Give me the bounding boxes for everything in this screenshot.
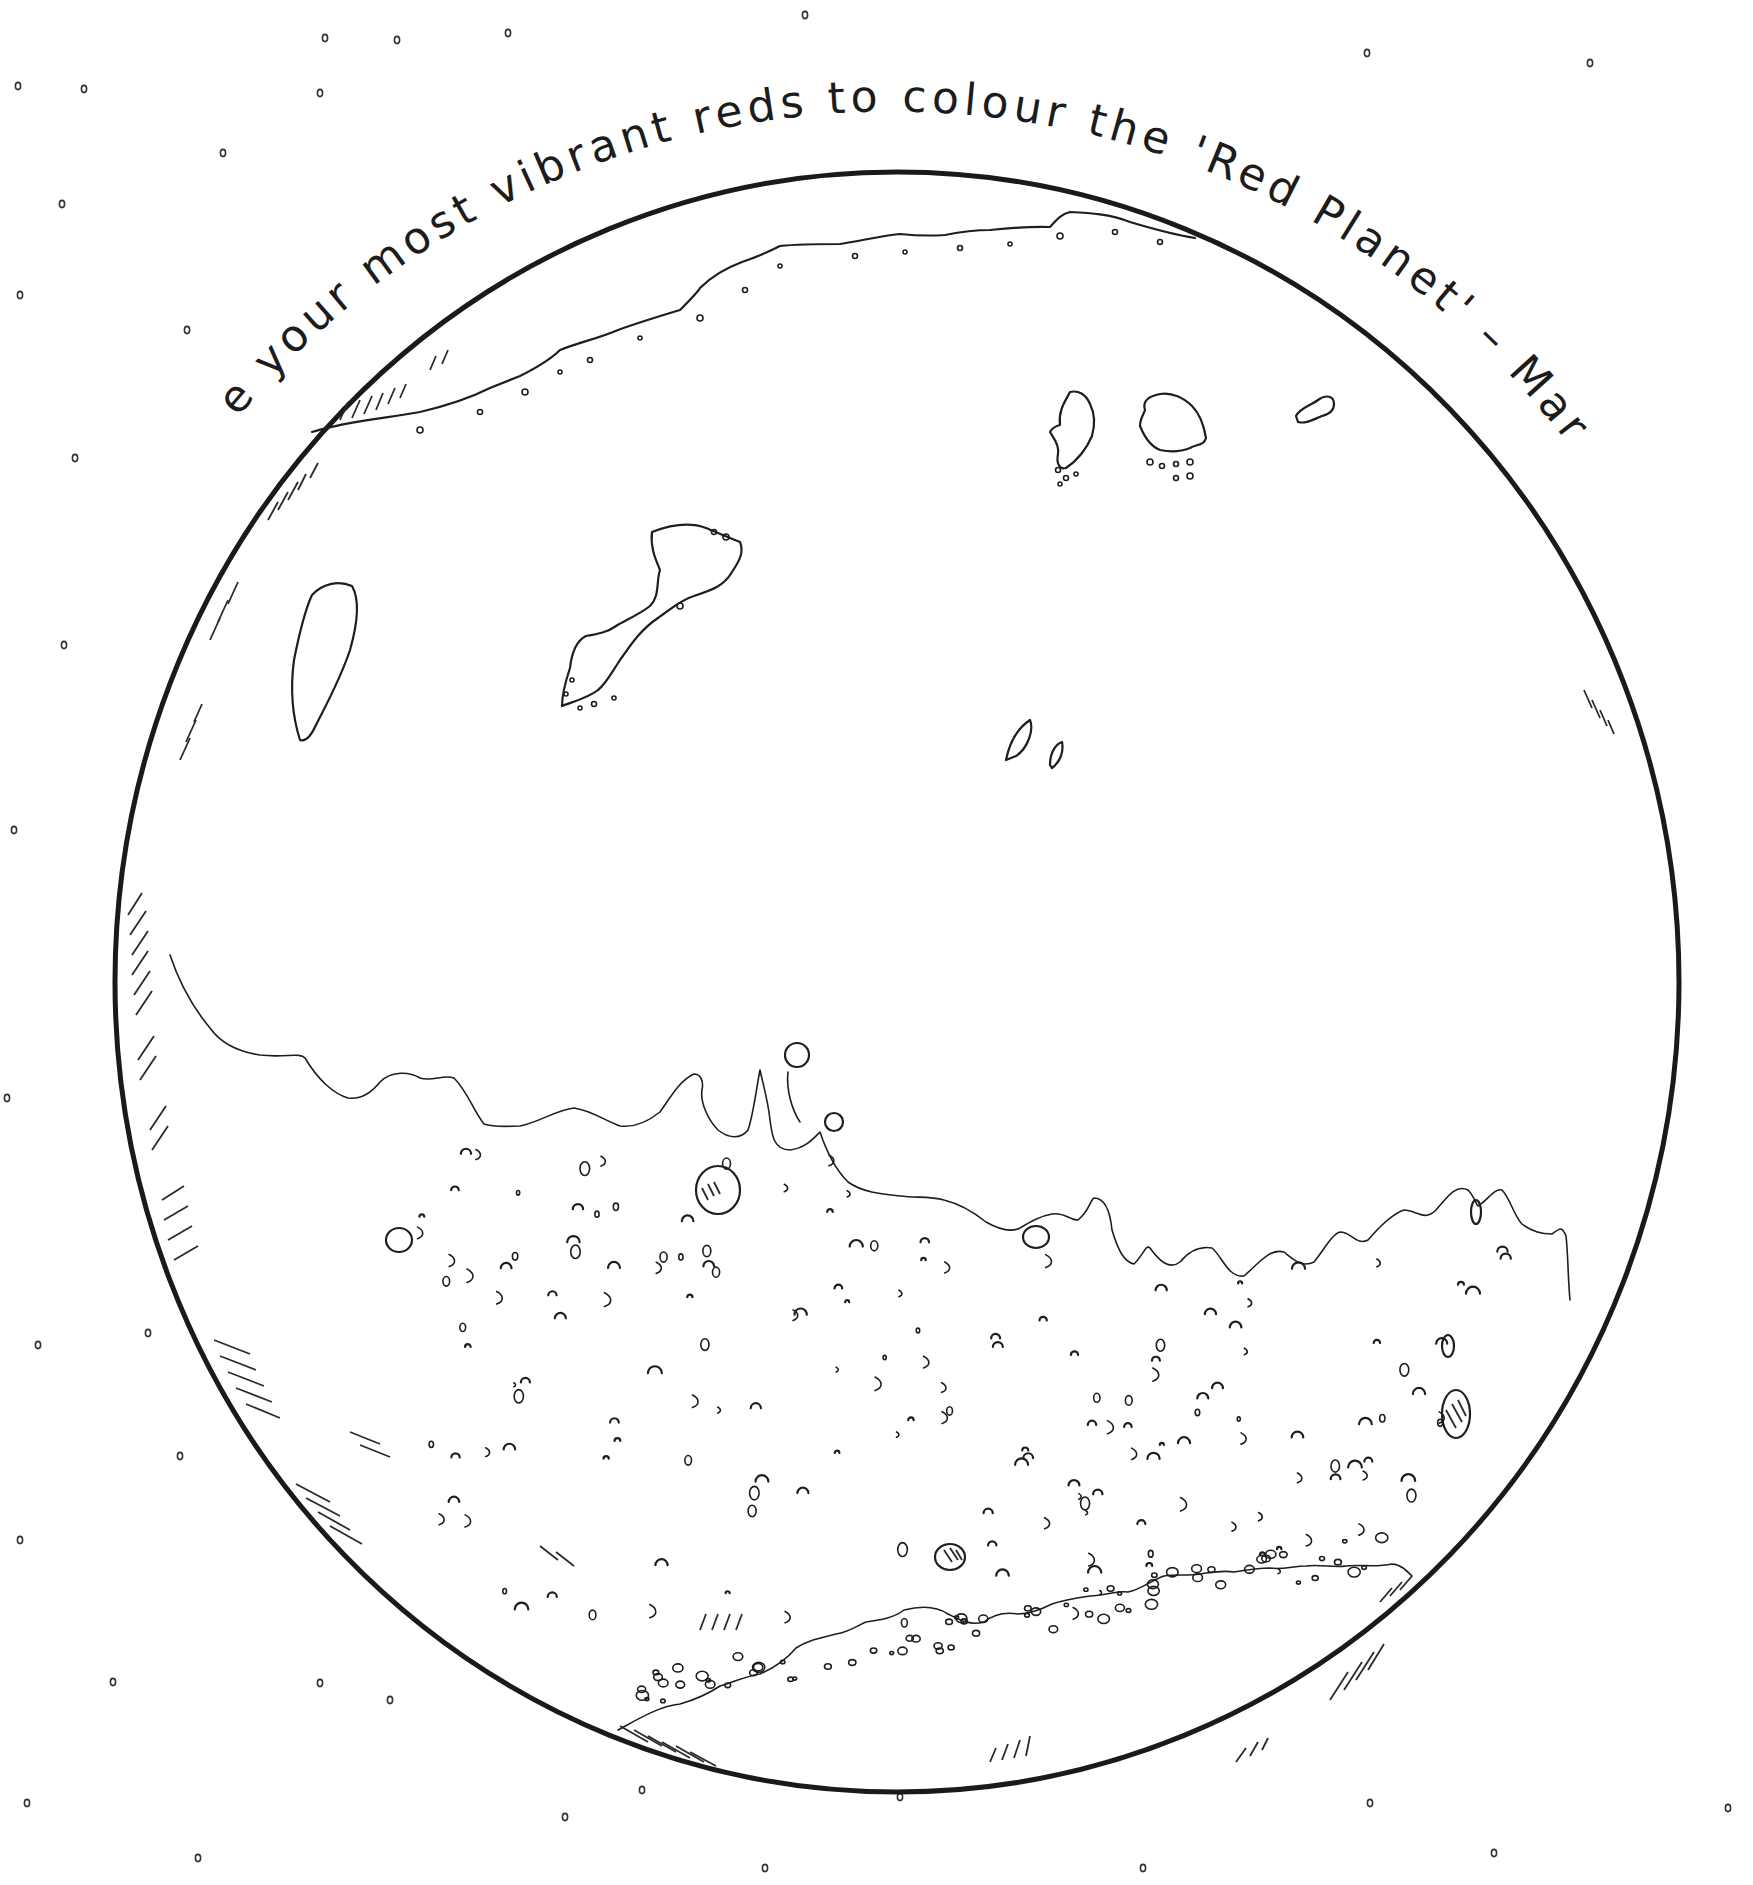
star-dot	[387, 1696, 392, 1703]
star-dot	[317, 1679, 322, 1686]
star-dot	[177, 1452, 182, 1459]
star-dot	[72, 454, 77, 461]
star-dot	[24, 1799, 29, 1806]
star-dot	[110, 1678, 115, 1685]
star-dot	[15, 82, 20, 89]
star-dot	[59, 200, 64, 207]
star-dot	[762, 1864, 767, 1871]
star-dot	[562, 1813, 567, 1820]
star-dot	[1587, 59, 1592, 66]
star-dot	[195, 1854, 200, 1861]
star-dot	[1140, 1864, 1145, 1871]
star-dot	[4, 1094, 9, 1101]
star-dot	[11, 826, 16, 833]
star-dot	[1364, 49, 1369, 56]
mars-illustration: Use your most vibrant reds to colour the…	[0, 0, 1753, 1885]
star-dot	[1367, 1799, 1372, 1806]
star-dot	[639, 1786, 644, 1793]
star-dot	[505, 29, 510, 36]
star-dot	[1725, 1804, 1730, 1811]
star-dot	[1491, 1849, 1496, 1856]
star-dot	[61, 641, 66, 648]
star-dot	[184, 326, 189, 333]
star-dot	[81, 85, 86, 92]
star-dot	[17, 291, 22, 298]
star-dot	[322, 34, 327, 41]
star-dot	[802, 11, 807, 18]
star-dot	[17, 1536, 22, 1543]
colouring-page: Use your most vibrant reds to colour the…	[0, 0, 1753, 1885]
star-dot	[145, 1329, 150, 1336]
star-dot	[394, 36, 399, 43]
star-dot	[35, 1341, 40, 1348]
star-dot	[220, 149, 225, 156]
star-dot	[317, 89, 322, 96]
